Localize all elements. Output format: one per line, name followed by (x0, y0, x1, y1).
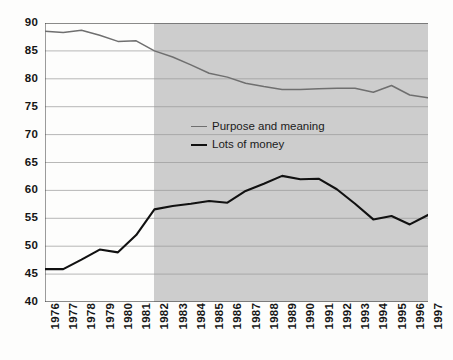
x-tick-label: 1995 (397, 303, 409, 329)
y-tick-label: 70 (4, 129, 38, 141)
x-tick-label: 1980 (123, 303, 135, 329)
x-tick-label: 1986 (232, 303, 244, 329)
x-tick-label: 1987 (251, 303, 263, 329)
y-tick-label: 50 (4, 240, 38, 252)
gridlines (45, 23, 428, 302)
line-swatch-gray (191, 126, 207, 127)
x-tick-label: 1982 (159, 303, 171, 329)
x-tick-label: 1977 (68, 303, 80, 329)
plot-area (45, 23, 428, 302)
y-axis: 4045505560657075808590 (0, 0, 38, 360)
x-tick-label: 1991 (324, 303, 336, 329)
x-tick-label: 1990 (305, 303, 317, 329)
y-tick-label: 55 (4, 212, 38, 224)
y-tick-label: 45 (4, 268, 38, 280)
x-tick-label: 1992 (342, 303, 354, 329)
chart-figure: 4045505560657075808590 19761977197819791… (0, 0, 453, 360)
x-tick-label: 1994 (378, 303, 390, 329)
x-tick-label: 1985 (214, 303, 226, 329)
y-tick-label: 85 (4, 45, 38, 57)
y-tick-label: 75 (4, 101, 38, 113)
x-tick-label: 1981 (141, 303, 153, 329)
y-tick-label: 90 (4, 17, 38, 29)
x-tick-label: 1988 (269, 303, 281, 329)
x-tick-label: 1979 (105, 303, 117, 329)
y-tick-label: 80 (4, 73, 38, 85)
x-tick-label: 1983 (178, 303, 190, 329)
legend-label: Purpose and meaning (212, 121, 325, 133)
x-axis: 1976197719781979198019811982198319841985… (45, 303, 428, 360)
x-tick-label: 1993 (360, 303, 372, 329)
x-tick-label: 1989 (287, 303, 299, 329)
y-tick-label: 65 (4, 157, 38, 169)
series-lines (45, 23, 428, 302)
y-tick-label: 60 (4, 184, 38, 196)
legend-label: Lots of money (212, 139, 284, 151)
x-tick-label: 1996 (415, 303, 427, 329)
x-tick-label: 1976 (50, 303, 62, 329)
series-line (45, 30, 428, 98)
x-tick-label: 1984 (196, 303, 208, 329)
chart-legend: Purpose and meaningLots of money (191, 119, 325, 152)
y-tick-label: 40 (4, 296, 38, 308)
series-line (45, 176, 428, 269)
x-tick-label: 1978 (86, 303, 98, 329)
line-swatch-black (191, 144, 207, 146)
x-tick-label: 1997 (433, 303, 445, 329)
legend-item: Purpose and meaning (191, 119, 325, 134)
legend-item: Lots of money (191, 137, 325, 152)
